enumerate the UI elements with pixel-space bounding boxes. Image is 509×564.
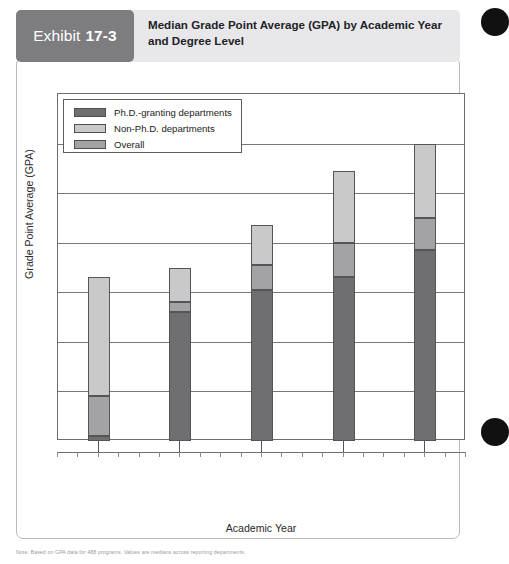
- page-edge-dot-top: [481, 8, 509, 36]
- x-axis-minor-tick: [302, 452, 303, 457]
- y-axis: [0, 0, 57, 564]
- x-axis-minor-tick: [57, 452, 58, 457]
- x-axis-minor-tick: [159, 452, 160, 457]
- legend-swatch: [74, 108, 106, 117]
- exhibit-title: Median Grade Point Average (GPA) by Acad…: [148, 17, 448, 50]
- x-axis-minor-tick: [179, 452, 180, 457]
- bar-segment-non-phd: [333, 171, 355, 243]
- x-axis-major-tick: [424, 441, 425, 452]
- bar-segment-phd: [251, 290, 273, 441]
- bar-column: [333, 94, 355, 441]
- legend-item: Overall: [74, 136, 241, 152]
- x-axis-minor-tick: [200, 452, 201, 457]
- x-axis-minor-tick: [383, 452, 384, 457]
- legend-label: Ph.D.-granting departments: [114, 107, 232, 118]
- x-axis-minor-tick: [322, 452, 323, 457]
- bar-segment-phd: [414, 250, 436, 441]
- bar-segment-phd: [88, 436, 110, 441]
- x-axis-major-tick: [98, 441, 99, 452]
- x-axis-minor-tick: [343, 452, 344, 457]
- bar-segment-overall: [251, 265, 273, 290]
- bar-segment-overall: [169, 302, 191, 312]
- bar-segment-overall: [88, 396, 110, 436]
- x-axis-minor-tick: [139, 452, 140, 457]
- x-axis-minor-tick: [261, 452, 262, 457]
- x-axis-minor-tick: [241, 452, 242, 457]
- bar-segment-non-phd: [414, 144, 436, 218]
- legend-item: Non-Ph.D. departments: [74, 120, 241, 136]
- x-axis-minor-tick: [445, 452, 446, 457]
- bar-segment-non-phd: [251, 225, 273, 265]
- x-axis-major-tick: [179, 441, 180, 452]
- legend-swatch: [74, 140, 106, 149]
- exhibit-tag-number: 17-3: [85, 27, 116, 45]
- x-axis-minor-tick: [404, 452, 405, 457]
- bar-column: [251, 94, 273, 441]
- x-axis-minor-tick: [424, 452, 425, 457]
- bar-column: [414, 94, 436, 441]
- x-axis-minor-tick: [77, 452, 78, 457]
- exhibit-header-banner: Exhibit 17-3 Median Grade Point Average …: [16, 10, 460, 62]
- bar-segment-non-phd: [169, 268, 191, 303]
- x-axis-major-tick: [343, 441, 344, 452]
- bar-segment-non-phd: [88, 277, 110, 396]
- legend-swatch: [74, 124, 106, 133]
- legend-label: Non-Ph.D. departments: [114, 123, 215, 134]
- bar-segment-overall: [333, 243, 355, 278]
- chart-legend: Ph.D.-granting departmentsNon-Ph.D. depa…: [63, 99, 242, 153]
- x-axis-minor-tick: [465, 452, 466, 457]
- x-axis-major-tick: [261, 441, 262, 452]
- footnote: Note: Based on GPA data for 488 programs…: [16, 549, 476, 562]
- x-axis-minor-tick: [98, 452, 99, 457]
- bar-segment-phd: [333, 277, 355, 441]
- bar-segment-overall: [414, 218, 436, 250]
- x-axis-title: Academic Year: [57, 522, 465, 534]
- x-axis-minor-tick: [363, 452, 364, 457]
- x-axis-minor-tick: [118, 452, 119, 457]
- x-axis-minor-tick: [281, 452, 282, 457]
- x-axis-minor-tick: [220, 452, 221, 457]
- legend-label: Overall: [114, 139, 144, 150]
- page-edge-dot-bottom: [481, 418, 509, 446]
- legend-item: Ph.D.-granting departments: [74, 104, 241, 120]
- bar-segment-phd: [169, 312, 191, 441]
